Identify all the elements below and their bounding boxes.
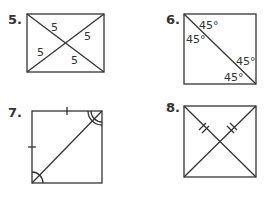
figure-number: 7. <box>8 105 22 120</box>
segment-label: 5 <box>84 30 91 43</box>
segment-label: 5 <box>51 21 58 34</box>
angle-label: 45° <box>186 33 206 46</box>
segment-label: 5 <box>37 46 44 59</box>
figure-number: 5. <box>8 12 22 27</box>
double-tick-left <box>199 123 209 133</box>
figure-number: 8. <box>166 100 180 115</box>
angle-label: 45° <box>224 71 244 84</box>
figure-8: 8. <box>166 100 256 177</box>
figures-canvas: 5. 5 5 5 5 6. 45° 45° 45° 45° 7. 8. <box>0 0 265 197</box>
segment-label: 5 <box>71 54 78 67</box>
figure-7: 7. <box>8 105 102 183</box>
angle-label: 45° <box>199 19 219 32</box>
figure-5: 5. 5 5 5 5 <box>8 12 104 72</box>
figure-6: 6. 45° 45° 45° 45° <box>166 12 256 84</box>
angle-label: 45° <box>236 55 256 68</box>
diagonal <box>32 111 102 183</box>
double-tick-right <box>227 123 237 133</box>
diagonal <box>184 14 256 84</box>
figure-number: 6. <box>166 12 180 27</box>
